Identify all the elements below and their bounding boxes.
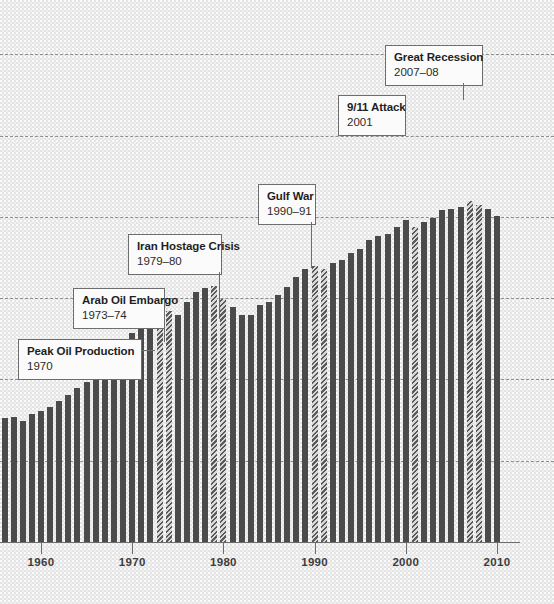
x-axis-tick-label: 2000 — [392, 556, 419, 568]
bar — [20, 421, 26, 542]
annotation-leader-peak-oil-production — [141, 350, 155, 351]
bar — [93, 372, 99, 542]
annotation-box-gulf-war[interactable]: Gulf War 1990–91 — [258, 184, 316, 225]
bar — [56, 401, 62, 542]
bar — [357, 249, 363, 542]
bar — [284, 287, 290, 542]
annotation-subtitle: 2007–08 — [394, 66, 473, 80]
bar — [366, 240, 372, 542]
bar — [74, 388, 80, 542]
annotation-title: Peak Oil Production — [27, 345, 132, 359]
bar — [302, 269, 308, 542]
x-axis-tick — [406, 543, 407, 554]
x-axis-tick — [223, 543, 224, 554]
bar — [494, 216, 500, 542]
annotation-title: Great Recession — [394, 51, 473, 65]
bar — [394, 227, 400, 542]
bar — [266, 302, 272, 542]
bar — [448, 209, 454, 542]
annotation-title: 9/11 Attack — [347, 101, 396, 115]
annotation-leader-gulf-war — [311, 222, 312, 268]
annotation-leader-great-recession — [463, 83, 464, 100]
x-axis-tick-label: 1960 — [28, 556, 55, 568]
annotation-leader-arab-oil-embargo — [164, 325, 165, 342]
bar — [412, 227, 418, 542]
bar — [257, 305, 263, 542]
annotation-box-great-recession[interactable]: Great Recession 2007–08 — [385, 45, 483, 86]
bar — [275, 295, 281, 542]
bar — [2, 418, 8, 542]
bar — [166, 311, 172, 542]
bar — [293, 277, 299, 542]
bar — [157, 304, 163, 542]
bar — [385, 234, 391, 542]
annotation-subtitle: 1990–91 — [267, 205, 306, 219]
bar — [375, 236, 381, 542]
x-axis-tick-label: 1980 — [210, 556, 237, 568]
annotation-subtitle: 1979–80 — [137, 255, 212, 269]
x-axis-tick-label: 1990 — [301, 556, 328, 568]
annotation-box-peak-oil-production[interactable]: Peak Oil Production 1970 — [18, 339, 142, 380]
bar — [220, 299, 226, 542]
bar — [467, 201, 473, 542]
bar — [211, 286, 217, 542]
annotation-title: Arab Oil Embargo — [82, 294, 155, 308]
annotation-subtitle: 1970 — [27, 360, 132, 374]
bar — [248, 315, 254, 542]
annotation-box-september-11-attack[interactable]: 9/11 Attack 2001 — [338, 95, 406, 136]
bar — [193, 292, 199, 542]
annotation-title: Iran Hostage Crisis — [137, 240, 212, 254]
bar — [230, 307, 236, 542]
bar — [458, 207, 464, 542]
bar — [184, 302, 190, 542]
bar — [421, 222, 427, 542]
bar — [485, 209, 491, 542]
bar — [348, 253, 354, 542]
x-axis-tick — [132, 543, 133, 554]
bar — [312, 266, 318, 542]
bar — [175, 315, 181, 542]
bar — [29, 414, 35, 542]
bar — [65, 395, 71, 542]
bar — [430, 218, 436, 542]
x-axis-tick-label: 1970 — [119, 556, 146, 568]
annotation-box-iran-hostage-crisis[interactable]: Iran Hostage Crisis 1979–80 — [128, 234, 222, 275]
bar — [339, 260, 345, 542]
x-axis-tick — [41, 543, 42, 554]
bar — [38, 411, 44, 542]
bar — [403, 220, 409, 542]
bar — [239, 315, 245, 542]
annotation-subtitle: 1973–74 — [82, 309, 155, 323]
annotation-title: Gulf War — [267, 190, 306, 204]
bar — [202, 288, 208, 542]
bar — [102, 366, 108, 542]
annotation-subtitle: 2001 — [347, 116, 396, 130]
bar — [111, 354, 117, 542]
bar — [47, 407, 53, 542]
x-axis-tick-label: 2010 — [484, 556, 511, 568]
annotation-leader-iran-hostage-crisis — [219, 272, 220, 319]
chart-canvas: 196019701980199020002010 Peak Oil Produc… — [0, 0, 554, 604]
annotation-box-arab-oil-embargo[interactable]: Arab Oil Embargo 1973–74 — [73, 288, 165, 329]
bar — [11, 417, 17, 542]
bar — [439, 210, 445, 542]
bar — [476, 205, 482, 542]
bar — [321, 269, 327, 542]
bar — [84, 382, 90, 542]
x-axis-tick — [497, 543, 498, 554]
x-axis-line — [0, 542, 520, 543]
bar — [330, 263, 336, 542]
x-axis-tick — [315, 543, 316, 554]
